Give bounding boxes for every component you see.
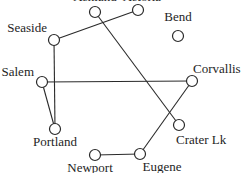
node-bend [173,31,184,42]
label-corvallis: Corvallis [193,61,241,76]
city-graph-diagram: AshlandAstoriaBendSeasideSalemCorvallisP… [0,0,245,173]
node-portland [50,124,61,135]
node-ashland [90,7,101,18]
node-salem [37,77,48,88]
node-eugene [135,149,146,160]
edge-salem-portland [42,82,55,129]
node-astoria [133,5,144,16]
edge-newport-eugene [95,154,140,155]
label-salem: Salem [2,64,35,79]
label-astoria: Astoria [123,0,162,4]
label-seaside: Seaside [7,20,47,35]
label-ashland: Ashland [73,0,117,4]
node-corvallis [187,76,198,87]
node-craterlk [174,120,185,131]
label-bend: Bend [164,9,192,24]
edge-ashland-craterlk [95,12,179,125]
graph-labels: AshlandAstoriaBendSeasideSalemCorvallisP… [2,0,241,173]
edge-seaside-portland [54,40,55,129]
label-eugene: Eugene [143,159,182,173]
node-newport [90,150,101,161]
label-newport: Newport [67,160,113,173]
node-seaside [49,35,60,46]
label-portland: Portland [33,134,78,149]
edge-salem-corvallis [42,81,192,82]
label-craterlk: Crater Lk [176,132,227,147]
